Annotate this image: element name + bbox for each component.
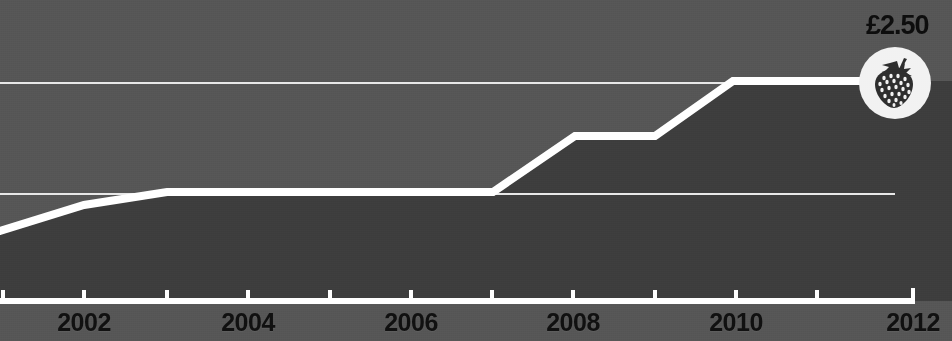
x-tick-label-2008: 2008 (546, 308, 600, 337)
x-tick-label-2010: 2010 (709, 308, 763, 337)
chart-plot-area (0, 0, 952, 341)
x-tick-label-2006: 2006 (384, 308, 438, 337)
price-line-chart: 2002 2004 2006 2008 2010 2012 £2.50 (0, 0, 952, 341)
value-callout-label: £2.50 (866, 10, 929, 41)
x-tick-label-2012: 2012 (886, 308, 940, 337)
x-tick-label-2004: 2004 (221, 308, 275, 337)
x-tick-label-2002: 2002 (57, 308, 111, 337)
series-end-marker (859, 47, 931, 119)
strawberry-icon (867, 55, 923, 111)
